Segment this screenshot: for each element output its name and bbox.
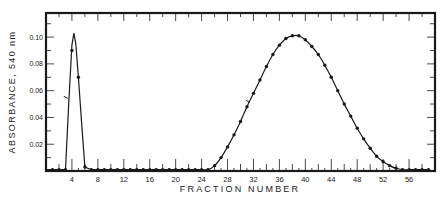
data-point bbox=[252, 92, 255, 95]
y-tick-label: 0.06 bbox=[29, 87, 43, 94]
x-tick-label: 32 bbox=[249, 175, 257, 184]
y-tick-label: 0.04 bbox=[29, 114, 43, 121]
data-point bbox=[51, 168, 54, 171]
axis-tick-labels: 481216202428323640444852560.020.040.060.… bbox=[29, 34, 413, 184]
data-point bbox=[317, 53, 320, 56]
data-point bbox=[90, 168, 93, 171]
data-point bbox=[368, 147, 371, 150]
data-point bbox=[219, 156, 222, 159]
data-point bbox=[148, 168, 151, 171]
data-point bbox=[271, 53, 274, 56]
data-point bbox=[142, 168, 145, 171]
data-point bbox=[291, 34, 294, 37]
data-point bbox=[375, 155, 378, 158]
data-point bbox=[388, 164, 391, 167]
data-point bbox=[330, 76, 333, 79]
x-tick-label: 8 bbox=[96, 175, 100, 184]
data-point bbox=[193, 168, 196, 171]
y-tick-label: 0.08 bbox=[29, 60, 43, 67]
y-tick-label: 0.10 bbox=[29, 34, 43, 41]
x-tick-label: 44 bbox=[327, 175, 335, 184]
data-point bbox=[206, 168, 209, 171]
data-point bbox=[200, 168, 203, 171]
x-tick-label: 56 bbox=[405, 175, 413, 184]
data-point bbox=[297, 34, 300, 37]
plot-border bbox=[46, 13, 435, 171]
data-point bbox=[401, 168, 404, 171]
data-point bbox=[239, 120, 242, 123]
y-tick-label: 0.02 bbox=[29, 141, 43, 148]
data-point bbox=[116, 168, 119, 171]
data-point bbox=[343, 102, 346, 105]
plot-frame bbox=[46, 13, 435, 171]
data-point bbox=[167, 168, 170, 171]
data-point bbox=[278, 43, 281, 46]
data-point bbox=[336, 89, 339, 92]
chart: 481216202428323640444852560.020.040.060.… bbox=[0, 0, 448, 202]
axis-ticks bbox=[46, 13, 435, 171]
x-axis-label: FRACTION NUMBER bbox=[180, 184, 301, 194]
data-point bbox=[349, 114, 352, 117]
data-point bbox=[109, 168, 112, 171]
data-point bbox=[245, 105, 248, 108]
data-point bbox=[57, 168, 60, 171]
data-point bbox=[135, 168, 138, 171]
data-point bbox=[362, 137, 365, 140]
data-point bbox=[83, 165, 86, 168]
data-point bbox=[174, 168, 177, 171]
y-axis-label: ABSORBANCE, 540 nm bbox=[7, 31, 17, 154]
x-tick-label: 20 bbox=[171, 175, 179, 184]
data-point bbox=[187, 168, 190, 171]
data-point bbox=[407, 168, 410, 171]
peak-2-curve bbox=[91, 35, 428, 170]
data-point bbox=[356, 126, 359, 129]
data-point bbox=[284, 37, 287, 40]
data-point bbox=[414, 168, 417, 171]
data-point bbox=[96, 168, 99, 171]
data-point bbox=[64, 168, 67, 171]
data-point bbox=[155, 168, 158, 171]
data-points bbox=[51, 34, 430, 171]
peak-1-curve bbox=[46, 33, 91, 170]
data-point bbox=[304, 38, 307, 41]
data-point bbox=[226, 145, 229, 148]
data-point bbox=[265, 65, 268, 68]
x-tick-label: 16 bbox=[146, 175, 154, 184]
data-point bbox=[427, 168, 430, 171]
annotation-mark bbox=[64, 96, 68, 98]
data-point bbox=[323, 64, 326, 67]
data-point bbox=[310, 45, 313, 48]
data-point bbox=[213, 164, 216, 167]
x-tick-label: 4 bbox=[70, 175, 74, 184]
x-tick-label: 48 bbox=[353, 175, 361, 184]
x-tick-label: 12 bbox=[120, 175, 128, 184]
data-point bbox=[161, 168, 164, 171]
data-point bbox=[180, 168, 183, 171]
x-tick-label: 28 bbox=[223, 175, 231, 184]
data-point bbox=[232, 133, 235, 136]
data-point bbox=[394, 167, 397, 170]
data-point bbox=[258, 78, 261, 81]
data-point bbox=[129, 168, 132, 171]
data-point bbox=[420, 168, 423, 171]
data-point bbox=[77, 76, 80, 79]
x-tick-label: 40 bbox=[301, 175, 309, 184]
data-point bbox=[70, 49, 73, 52]
annotations bbox=[64, 96, 250, 102]
x-tick-label: 24 bbox=[197, 175, 205, 184]
data-point bbox=[103, 168, 106, 171]
x-tick-label: 36 bbox=[275, 175, 283, 184]
data-point bbox=[122, 168, 125, 171]
x-tick-label: 52 bbox=[379, 175, 387, 184]
data-point bbox=[381, 160, 384, 163]
